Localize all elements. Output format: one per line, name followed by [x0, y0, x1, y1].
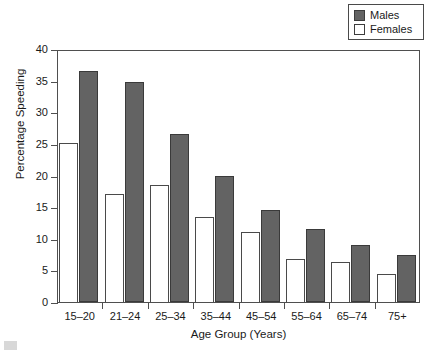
y-axis-tick — [51, 240, 58, 241]
bar-females-25–34 — [150, 185, 169, 302]
x-axis-tick — [239, 303, 240, 309]
bar-females-55–64 — [286, 259, 305, 302]
y-axis-tick-label: 20 — [4, 171, 48, 182]
bar-females-75+ — [377, 274, 396, 302]
bar-females-15–20 — [59, 143, 78, 302]
y-axis-tick — [51, 271, 58, 272]
x-axis-tick-label: 35–44 — [201, 310, 232, 322]
y-axis-tick — [51, 208, 58, 209]
bar-males-45–54 — [261, 210, 280, 302]
x-axis-tick — [102, 303, 103, 309]
y-axis-tick-label: 35 — [4, 76, 48, 87]
y-axis-tick-label: 5 — [4, 265, 48, 276]
y-axis-tick — [51, 177, 58, 178]
x-axis-tick-label: 45–54 — [246, 310, 277, 322]
legend-label-males: Males — [370, 9, 399, 21]
y-axis-tick-label: 40 — [4, 44, 48, 55]
x-axis-tick — [193, 303, 194, 309]
legend-label-females: Females — [370, 23, 412, 35]
bar-males-21–24 — [125, 82, 144, 302]
y-axis-tick-label: 30 — [4, 107, 48, 118]
bar-males-15–20 — [79, 71, 98, 302]
bar-males-55–64 — [306, 229, 325, 302]
x-axis-tick — [329, 303, 330, 309]
bar-females-21–24 — [105, 194, 124, 302]
x-axis-tick — [284, 303, 285, 309]
x-axis-tick — [148, 303, 149, 309]
legend-entry-females: Females — [354, 22, 419, 36]
bar-males-65–74 — [351, 245, 370, 302]
bar-females-65–74 — [331, 262, 350, 302]
bar-males-35–44 — [215, 176, 234, 303]
x-axis-tick-label: 15–20 — [64, 310, 95, 322]
y-axis-tick-label: 0 — [4, 297, 48, 308]
chart-legend: Males Females — [348, 4, 424, 40]
bars-layer — [58, 51, 419, 302]
x-axis-tick-label: 55–64 — [291, 310, 322, 322]
y-axis-tick-label: 25 — [4, 139, 48, 150]
y-axis-tick — [51, 145, 58, 146]
x-axis-tick-label: 75+ — [388, 310, 407, 322]
x-axis-tick-label: 21–24 — [110, 310, 141, 322]
y-axis-tick-label: 10 — [4, 234, 48, 245]
bar-females-35–44 — [195, 217, 214, 302]
legend-swatch-females-icon — [354, 24, 365, 35]
y-axis-title: Percentage Speeding — [14, 24, 26, 224]
bar-males-75+ — [397, 255, 416, 302]
y-axis-tick-label: 15 — [4, 202, 48, 213]
y-axis-tick — [51, 303, 58, 304]
y-axis-tick — [51, 50, 58, 51]
plot-area — [57, 50, 420, 303]
y-axis-tick — [51, 113, 58, 114]
x-axis-tick-label: 25–34 — [155, 310, 186, 322]
x-axis-tick — [375, 303, 376, 309]
bar-females-45–54 — [241, 232, 260, 302]
bar-males-25–34 — [170, 134, 189, 302]
y-axis-tick — [51, 82, 58, 83]
legend-swatch-males-icon — [354, 10, 365, 21]
x-axis-title: Age Group (Years) — [57, 328, 420, 340]
x-axis-tick-label: 65–74 — [337, 310, 368, 322]
legend-entry-males: Males — [354, 8, 419, 22]
scan-artifact — [4, 341, 17, 350]
